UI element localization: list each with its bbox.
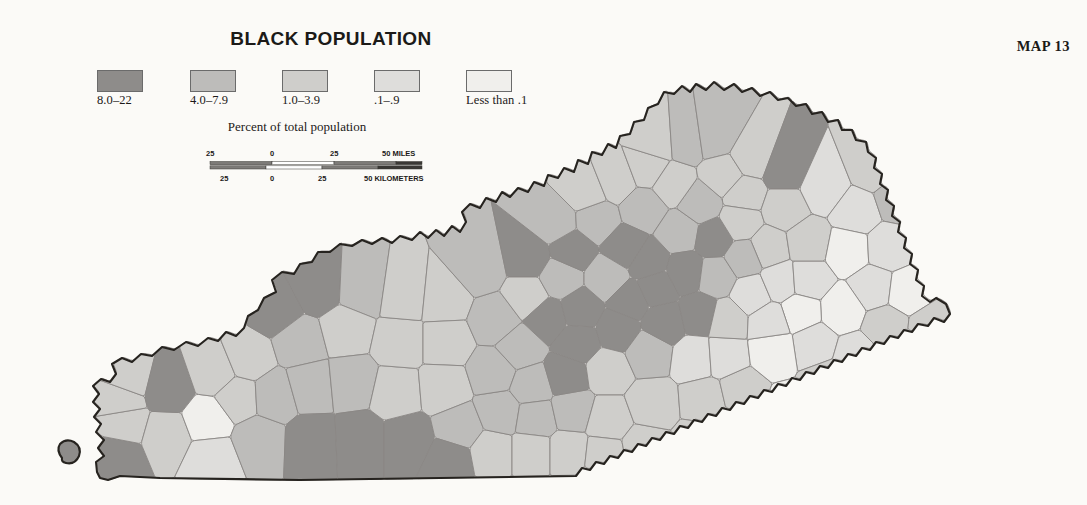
scale-miles-tick-2: 25 [330,149,338,158]
scale-km-unit: 50 KILOMETERS [364,174,424,183]
legend-entry-2: 1.0–3.9 [282,70,328,108]
map-number-label: MAP 13 [1017,38,1070,55]
legend-label-1: 4.0–7.9 [190,93,236,108]
legend-entry-1: 4.0–7.9 [190,70,236,108]
scale-miles-unit: 50 MILES [382,149,415,158]
legend-entry-4: Less than .1 [466,70,527,108]
scale-miles-tick-0: 25 [206,149,214,158]
legend-swatch-3 [374,70,420,92]
legend-swatch-2 [282,70,328,92]
scale-km-tick-0: 25 [220,174,228,183]
legend-swatch-0 [97,70,143,92]
county-region [284,413,338,480]
legend-entry-0: 8.0–22 [97,70,143,108]
legend-entry-3: .1–.9 [374,70,420,108]
county-region [515,400,557,436]
counties-layer [58,82,950,480]
page-title: BLACK POPULATION [216,28,446,50]
county-region [369,366,421,420]
county-region [335,410,384,480]
legend-swatch-4 [466,70,512,92]
scale-km-tick-1: 0 [270,174,274,183]
scale-bar-graphic [206,160,426,172]
legend-label-0: 8.0–22 [97,93,143,108]
legend-caption: Percent of total population [97,119,497,135]
legend: 8.0–224.0–7.91.0–3.9.1–.9Less than .1 [97,70,537,116]
legend-label-2: 1.0–3.9 [282,93,328,108]
map-page: BLACK POPULATION MAP 13 8.0–224.0–7.91.0… [0,0,1087,505]
scale-km-tick-2: 25 [318,174,326,183]
county-region [867,221,912,271]
legend-swatch-1 [190,70,236,92]
legend-label-4: Less than .1 [466,93,527,108]
scale-bar: 25 0 25 50 MILES 25 0 25 50 KILOMETERS [206,149,426,189]
scale-miles-tick-1: 0 [270,149,274,158]
legend-label-3: .1–.9 [374,93,420,108]
county-region [512,433,550,476]
county-region [369,317,423,368]
